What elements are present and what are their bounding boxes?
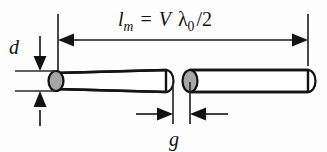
dipole-antenna-diagram: lm=Vλ0/2: [0, 0, 327, 152]
length-label: lm=Vλ0/2: [118, 8, 212, 34]
diameter-up-arrowhead-icon: [34, 91, 47, 107]
gap-left-arrowhead-icon: [157, 108, 173, 121]
left-arm-near-end-cap: [49, 71, 64, 91]
divide-two: /2: [196, 8, 212, 30]
length-left-arrowhead-icon: [58, 34, 74, 47]
velocity-symbol-V: V: [159, 8, 174, 30]
lambda-subscript-zero: 0: [188, 19, 195, 34]
lambda-symbol: λ: [178, 8, 188, 30]
diameter-label: d: [9, 36, 20, 58]
figure-container: lm=Vλ0/2: [0, 0, 327, 152]
diameter-down-arrowhead-icon: [34, 56, 47, 71]
right-dipole-arm: [183, 70, 316, 92]
right-arm-body: [190, 70, 308, 92]
length-subscript-m: m: [124, 19, 134, 34]
equals-sign: =: [140, 8, 151, 30]
length-right-arrowhead-icon: [292, 34, 308, 47]
gap-label: g: [169, 128, 179, 151]
gap-right-arrowhead-icon: [190, 108, 206, 121]
left-dipole-arm: [49, 70, 174, 92]
